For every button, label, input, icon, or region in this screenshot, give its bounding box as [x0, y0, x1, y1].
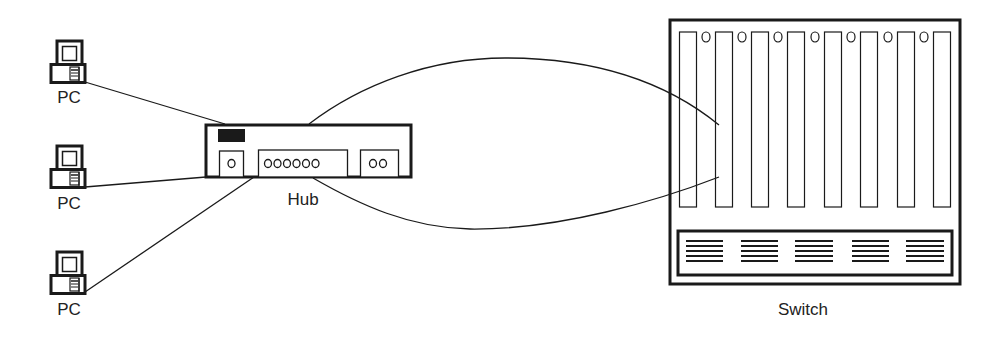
switch-icon — [670, 20, 960, 284]
pc2-label: PC — [57, 194, 81, 214]
pc-icon — [51, 146, 85, 188]
switch-label: Switch — [778, 300, 828, 320]
network-diagram — [0, 0, 1001, 353]
pc3-label: PC — [57, 300, 81, 320]
pc-icon — [51, 41, 85, 83]
pc1-label: PC — [57, 88, 81, 108]
link-hub-switch-lower — [313, 177, 719, 229]
link-pc2-hub — [85, 177, 206, 187]
hub-icon — [206, 125, 411, 177]
link-hub-switch-upper — [309, 58, 719, 125]
link-pc1-hub — [85, 82, 225, 124]
link-pc3-hub — [85, 177, 254, 292]
pc-icon — [51, 252, 85, 294]
hub-label: Hub — [287, 190, 318, 210]
